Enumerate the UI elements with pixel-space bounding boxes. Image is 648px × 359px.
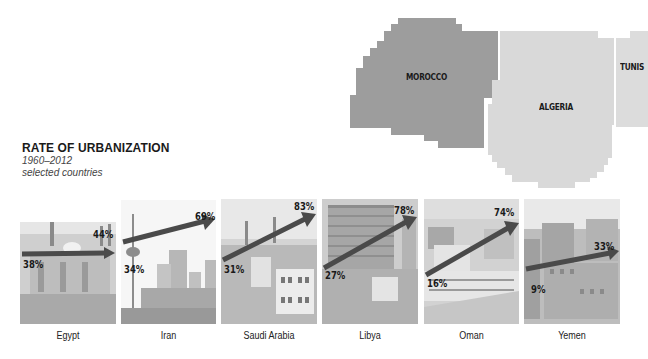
iran-end-value: 69%	[195, 211, 215, 222]
iran-start-value: 34%	[124, 264, 144, 275]
oman-end-value: 74%	[494, 207, 514, 218]
chart-title: RATE OF URBANIZATION	[22, 141, 170, 155]
egypt-end-value: 44%	[93, 229, 113, 240]
egypt-start-value: 38%	[23, 259, 43, 270]
algeria-label: ALGERIA	[539, 102, 573, 112]
yemen-caption: Yemen	[529, 330, 615, 341]
iran-caption: Iran	[126, 330, 212, 341]
libya-start-value: 27%	[325, 270, 345, 281]
libya-end-value: 78%	[394, 205, 414, 216]
tunisia-label: TUNIS	[620, 62, 644, 72]
libya-caption: Libya	[327, 330, 413, 341]
chart-subtitle-scope: selected countries	[22, 167, 170, 179]
chart-subtitle-years: 1960–2012	[22, 155, 170, 167]
oman-caption: Oman	[429, 330, 515, 341]
photo-libya	[322, 199, 418, 324]
egypt-caption: Egypt	[25, 330, 111, 341]
morocco-shape	[350, 18, 498, 148]
photo-yemen	[524, 199, 620, 324]
saudi-arabia-caption: Saudi Arabia	[226, 330, 312, 341]
yemen-end-value: 33%	[594, 241, 614, 252]
morocco-label: MOROCCO	[406, 72, 447, 82]
oman-start-value: 16%	[427, 278, 447, 289]
photo-saudi-arabia	[221, 199, 317, 324]
tunisia-shape	[616, 31, 648, 127]
saudi-arabia-end-value: 83%	[294, 201, 314, 212]
yemen-start-value: 9%	[531, 284, 545, 295]
chart-header: RATE OF URBANIZATION 1960–2012 selected …	[22, 141, 170, 179]
saudi-arabia-start-value: 31%	[224, 264, 244, 275]
